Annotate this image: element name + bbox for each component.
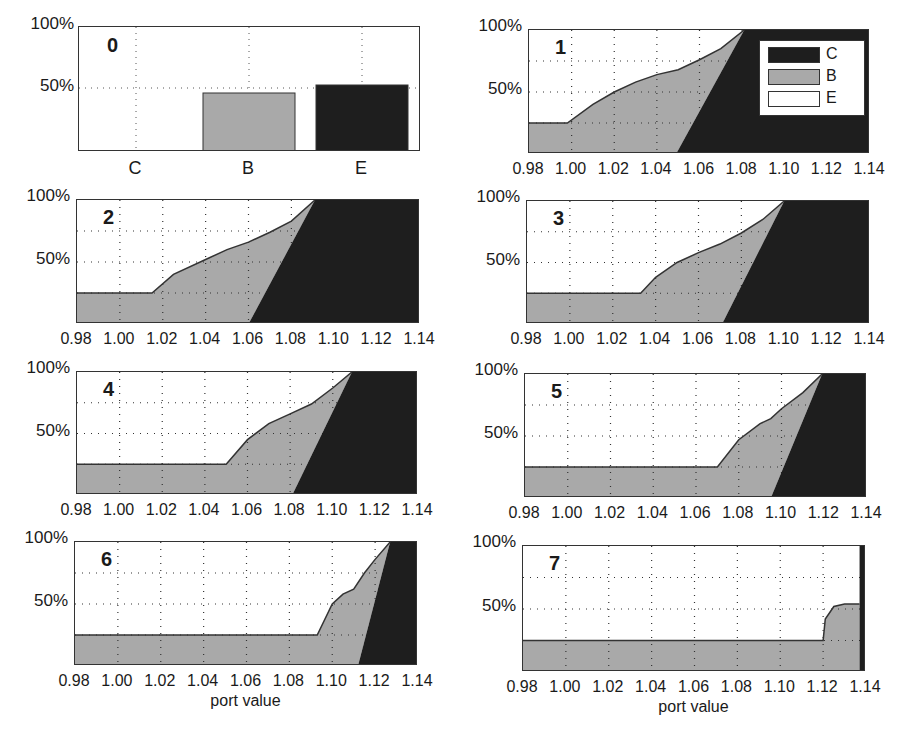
- x-tick: 1.02: [586, 678, 630, 696]
- x-tick: 1.04: [630, 504, 674, 522]
- area-chart-svg: [525, 374, 866, 497]
- y-tick-50: 50%: [8, 591, 68, 611]
- panel-label-1: 1: [555, 36, 566, 59]
- x-tick: 1.00: [97, 330, 141, 348]
- x-tick: 1.06: [672, 678, 716, 696]
- x-tick: 1.12: [352, 672, 396, 690]
- x-tick: 1.08: [714, 678, 758, 696]
- x-tick: 1.06: [676, 330, 720, 348]
- y-tick-50: 50%: [456, 596, 516, 616]
- region-C: [860, 546, 865, 671]
- x-tick: 1.06: [225, 501, 269, 519]
- bar-B: [203, 93, 295, 151]
- area-chart-svg: [77, 200, 419, 323]
- x-tick: 0.98: [54, 501, 98, 519]
- area-chart-svg: [523, 546, 865, 671]
- x-tick: 1.06: [224, 672, 268, 690]
- bar-plot-area: 0: [78, 26, 420, 151]
- x-tick: 1.08: [266, 672, 310, 690]
- x-tick: 0.98: [52, 672, 96, 690]
- x-tick: 1.00: [543, 678, 587, 696]
- cat-tick-E: E: [341, 158, 381, 179]
- x-axis-label: port value: [634, 698, 754, 716]
- legend-swatch-B: [768, 69, 820, 85]
- x-tick: 1.12: [804, 330, 848, 348]
- x-tick: 1.10: [759, 504, 803, 522]
- x-tick: 1.08: [267, 501, 311, 519]
- x-axis-label: port value: [186, 692, 306, 710]
- y-tick-50: 50%: [10, 249, 70, 269]
- x-tick: 1.10: [311, 330, 355, 348]
- x-tick: 1.06: [677, 160, 721, 178]
- x-tick: 1.08: [716, 504, 760, 522]
- y-tick-50: 50%: [462, 79, 522, 99]
- x-tick: 1.00: [549, 160, 593, 178]
- x-tick: 1.14: [843, 678, 887, 696]
- bar-E: [316, 85, 408, 151]
- panel-label-5: 5: [551, 380, 562, 403]
- x-tick: 0.98: [500, 678, 544, 696]
- x-tick: 1.04: [633, 330, 677, 348]
- x-tick: 1.08: [268, 330, 312, 348]
- legend-swatch-E: [768, 91, 820, 107]
- area-plot-7: 7: [522, 545, 865, 671]
- legend-label: C: [826, 45, 838, 63]
- x-tick: 1.06: [673, 504, 717, 522]
- area-chart-svg: [527, 201, 869, 323]
- x-tick: 1.12: [801, 504, 845, 522]
- area-plot-5: 5: [524, 373, 866, 497]
- legend-label: E: [826, 89, 837, 107]
- x-tick: 1.10: [762, 160, 806, 178]
- x-tick: 1.10: [309, 672, 353, 690]
- x-tick: 1.14: [847, 330, 891, 348]
- panel-label-4: 4: [103, 378, 114, 401]
- x-tick: 1.08: [718, 330, 762, 348]
- x-tick: 1.10: [757, 678, 801, 696]
- x-tick: 1.08: [719, 160, 763, 178]
- y-tick-100: 100%: [10, 358, 70, 378]
- cat-tick-C: C: [115, 158, 155, 179]
- area-plot-6: 6: [74, 541, 417, 665]
- x-tick: 1.02: [590, 330, 634, 348]
- x-tick: 1.14: [395, 672, 439, 690]
- x-tick: 1.02: [591, 160, 635, 178]
- cat-tick-B: B: [228, 158, 268, 179]
- x-tick: 1.12: [804, 160, 848, 178]
- y-tick-100: 100%: [8, 528, 68, 548]
- x-tick: 0.98: [504, 330, 548, 348]
- x-tick: 1.02: [138, 672, 182, 690]
- x-tick: 1.00: [547, 330, 591, 348]
- x-tick: 1.00: [545, 504, 589, 522]
- x-tick: 1.14: [395, 501, 439, 519]
- x-tick: 1.14: [847, 160, 891, 178]
- y-tick-100: 100%: [14, 14, 74, 34]
- x-tick: 1.04: [182, 501, 226, 519]
- x-tick: 1.04: [634, 160, 678, 178]
- legend-swatch-C: [768, 47, 820, 63]
- x-tick: 1.02: [140, 330, 184, 348]
- x-tick: 1.04: [183, 330, 227, 348]
- x-tick: 1.10: [761, 330, 805, 348]
- y-tick-100: 100%: [10, 186, 70, 206]
- area-plot-1: 1CBE: [528, 29, 869, 153]
- panel-label-7: 7: [549, 552, 560, 575]
- x-tick: 1.14: [844, 504, 888, 522]
- y-tick-50: 50%: [10, 421, 70, 441]
- bar-chart-svg: [79, 27, 420, 151]
- x-tick: 1.10: [310, 501, 354, 519]
- y-tick-50: 50%: [14, 76, 74, 96]
- x-tick: 0.98: [502, 504, 546, 522]
- legend-label: B: [826, 67, 837, 85]
- panel-label-3: 3: [553, 207, 564, 230]
- y-tick-100: 100%: [460, 187, 520, 207]
- x-tick: 1.02: [588, 504, 632, 522]
- x-tick: 1.12: [352, 501, 396, 519]
- x-tick: 1.12: [800, 678, 844, 696]
- x-tick: 1.00: [97, 501, 141, 519]
- area-chart-svg: [75, 542, 417, 665]
- x-tick: 0.98: [506, 160, 550, 178]
- x-tick: 1.04: [181, 672, 225, 690]
- panel-label-6: 6: [101, 548, 112, 571]
- y-tick-100: 100%: [458, 360, 518, 380]
- x-tick: 1.14: [397, 330, 441, 348]
